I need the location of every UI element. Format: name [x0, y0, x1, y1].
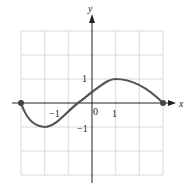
axes — [12, 18, 170, 183]
y-tick-1: 1 — [82, 73, 87, 84]
y-axis-label: y — [87, 3, 93, 14]
x-axis-label: x — [178, 98, 184, 109]
origin-label: 0 — [93, 106, 98, 117]
y-tick-neg1: −1 — [77, 123, 88, 134]
x-axis-arrow-icon — [168, 100, 176, 106]
endpoint-left — [18, 100, 24, 106]
x-tick-neg1: −1 — [49, 108, 60, 119]
endpoint-right — [160, 100, 166, 106]
y-axis-arrow-icon — [89, 14, 95, 23]
graph: y x 0 −1 1 1 −1 — [0, 0, 188, 192]
x-tick-1: 1 — [112, 108, 117, 119]
